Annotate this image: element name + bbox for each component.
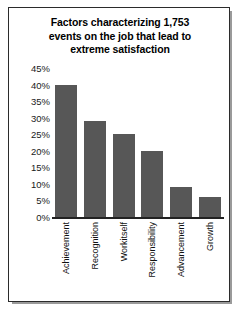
- x-axis-category-label: Recognition: [90, 222, 100, 270]
- bar: [55, 85, 77, 217]
- y-axis-tick-label: 10%: [23, 178, 50, 189]
- bar: [84, 121, 106, 217]
- bar: [113, 134, 135, 217]
- y-axis-tick-label: 35%: [23, 96, 50, 107]
- x-axis-category-label: Growth: [205, 222, 215, 251]
- x-axis-line: [52, 217, 224, 219]
- y-axis-tick-label: 45%: [23, 63, 50, 74]
- y-axis-tick-label: 40%: [23, 79, 50, 90]
- x-axis-label-slot: Growth: [199, 220, 221, 298]
- y-axis-tick-labels: 0%5%10%15%20%25%30%35%40%45%: [23, 8, 50, 303]
- x-axis-category-label: Workitself: [119, 222, 129, 261]
- x-axis-label-slot: Responsibility: [141, 220, 163, 298]
- bar: [170, 187, 192, 217]
- y-axis-tick-label: 0%: [23, 212, 50, 223]
- x-axis-category-labels: AchievementRecognitionWorkitselfResponsi…: [52, 220, 224, 300]
- x-axis-label-slot: Recognition: [84, 220, 106, 298]
- y-axis-tick-label: 20%: [23, 145, 50, 156]
- chart-card: Factors characterizing 1,753 events on t…: [8, 7, 230, 302]
- y-axis-tick-label: 15%: [23, 162, 50, 173]
- plot-area: 0%5%10%15%20%25%30%35%40%45% Achievement…: [9, 8, 231, 303]
- y-axis-tick-label: 5%: [23, 195, 50, 206]
- bar: [199, 197, 221, 217]
- x-axis-category-label: Responsibility: [147, 222, 157, 278]
- x-axis-category-label: Advancement: [176, 222, 186, 277]
- y-axis-tick-label: 30%: [23, 112, 50, 123]
- x-axis-category-label: Achievement: [61, 222, 71, 274]
- x-axis-label-slot: Advancement: [170, 220, 192, 298]
- x-axis-label-slot: Workitself: [113, 220, 135, 298]
- x-axis-label-slot: Achievement: [55, 220, 77, 298]
- y-axis-tick-label: 25%: [23, 129, 50, 140]
- bar-series: [52, 68, 224, 217]
- bar: [141, 151, 163, 217]
